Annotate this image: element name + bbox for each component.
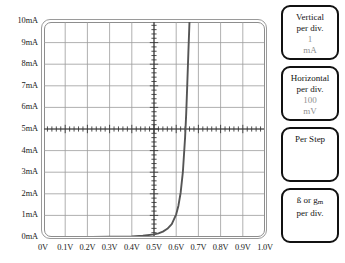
panel-beta-subscript: m bbox=[318, 198, 323, 206]
panel-vertical-per-div[interactable]: Vertical per div. 1 mA bbox=[281, 5, 339, 60]
panel-vertical-line1: Vertical bbox=[283, 12, 337, 23]
panel-vertical-unit: mA bbox=[283, 45, 337, 56]
y-tick-label: 4mA bbox=[0, 146, 38, 155]
panel-vertical-line2: per div. bbox=[283, 23, 337, 34]
y-tick-label: 1mA bbox=[0, 210, 38, 219]
y-tick-label: 8mA bbox=[0, 59, 38, 68]
panel-beta-line2: per div. bbox=[283, 208, 337, 219]
panel-horizontal-line1: Horizontal bbox=[283, 73, 337, 84]
x-tick-label: 1.0V bbox=[249, 243, 281, 252]
panel-per-step[interactable]: Per Step bbox=[281, 127, 339, 182]
graph-area: 10mA9mA8mA7mA6mA5mA4mA3mA2mA1mA0mA 0V0.1… bbox=[0, 0, 272, 263]
y-tick-label: 9mA bbox=[0, 38, 38, 47]
edge-artifact bbox=[341, 243, 344, 253]
y-tick-label: 2mA bbox=[0, 189, 38, 198]
panel-horizontal-per-div[interactable]: Horizontal per div. 100 mV bbox=[281, 66, 339, 121]
panel-beta-prefix: ß or bbox=[297, 195, 314, 205]
y-tick-label: 7mA bbox=[0, 81, 38, 90]
panel-horizontal-value: 100 bbox=[283, 95, 337, 106]
curve-tracer-screen: 10mA9mA8mA7mA6mA5mA4mA3mA2mA1mA0mA 0V0.1… bbox=[0, 0, 345, 263]
panel-horizontal-line2: per div. bbox=[283, 84, 337, 95]
y-tick-label: 10mA bbox=[0, 16, 38, 25]
panel-horizontal-unit: mV bbox=[283, 106, 337, 117]
panel-beta-or-gm-per-div[interactable]: ß or gm per div. bbox=[281, 188, 339, 243]
y-tick-label: 5mA bbox=[0, 124, 38, 133]
y-tick-label: 0mA bbox=[0, 232, 38, 241]
panel-per-step-line1: Per Step bbox=[283, 134, 337, 145]
panel-vertical-value: 1 bbox=[283, 34, 337, 45]
y-tick-label: 6mA bbox=[0, 102, 38, 111]
y-tick-label: 3mA bbox=[0, 167, 38, 176]
panel-beta-line1: ß or gm bbox=[283, 195, 337, 208]
